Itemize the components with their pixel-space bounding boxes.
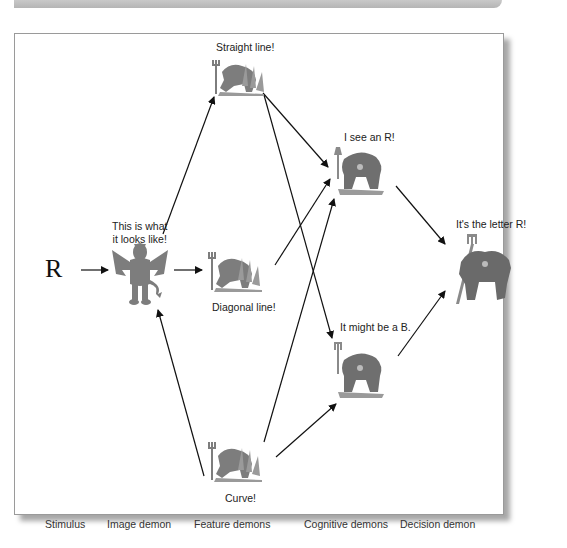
- arrow-diagonal-to-r: [275, 179, 330, 265]
- feature-demon-straight-icon: [212, 58, 268, 96]
- decision-speech: It's the letter R!: [456, 218, 526, 230]
- decision-demon-icon: [453, 234, 515, 306]
- feature-diagonal-speech: Diagonal line!: [212, 301, 276, 313]
- arrow-curve-to-b: [276, 404, 336, 457]
- arrow-curve-to-r: [264, 199, 334, 442]
- feature-straight-speech: Straight line!: [216, 41, 274, 53]
- feature-curve-speech: Curve!: [225, 492, 256, 504]
- cognitive-r-speech: I see an R!: [344, 131, 395, 143]
- stimulus-letter: R: [45, 254, 62, 284]
- column-label-feature-demons: Feature demons: [194, 518, 270, 530]
- arrow-r-to-decision: [396, 186, 445, 244]
- cognitive-demon-r-icon: [330, 145, 390, 197]
- speech-line: This is what: [112, 220, 167, 233]
- arrow-straight-to-r: [263, 93, 328, 167]
- feature-demon-curve-icon: [208, 440, 266, 482]
- arrow-curve-to-image: [158, 310, 204, 476]
- arrow-image-to-straight: [163, 97, 214, 234]
- cognitive-demon-b-icon: [330, 340, 390, 400]
- column-label-image-demon: Image demon: [107, 518, 171, 530]
- column-label-decision-demon: Decision demon: [400, 518, 475, 530]
- winged-devil-icon: [108, 240, 172, 306]
- feature-demon-diagonal-icon: [208, 250, 266, 292]
- cognitive-b-speech: It might be a B.: [340, 321, 411, 333]
- column-label-stimulus: Stimulus: [45, 518, 85, 530]
- column-label-cognitive-demons: Cognitive demons: [304, 518, 388, 530]
